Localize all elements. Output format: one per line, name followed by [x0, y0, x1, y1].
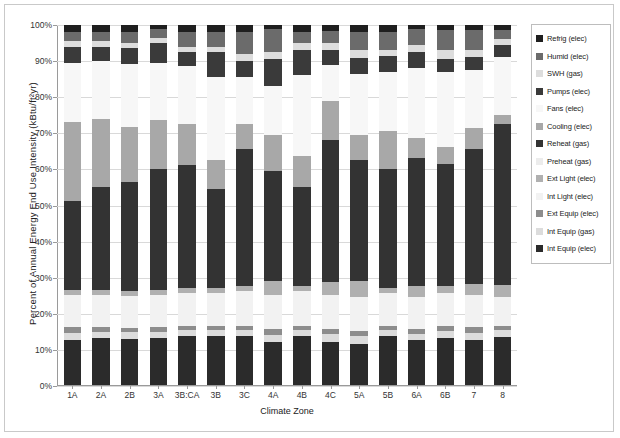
bar-slot: 4A	[259, 25, 288, 385]
legend-item[interactable]: Int Equip (elec)	[536, 240, 607, 258]
stacked-bar[interactable]	[322, 25, 339, 385]
legend-item[interactable]: Ext Equip (elec)	[536, 205, 607, 223]
x-axis-tick-mark	[130, 385, 131, 389]
bar-segment	[322, 101, 339, 141]
stacked-bar[interactable]	[293, 25, 310, 385]
bar-segment	[236, 336, 253, 385]
stacked-bar[interactable]	[150, 25, 167, 385]
x-axis-tick-label: 2A	[96, 390, 106, 400]
legend-swatch-icon	[536, 140, 543, 147]
bar-segment	[264, 295, 281, 329]
bar-segment	[408, 138, 425, 158]
stacked-bar[interactable]	[408, 25, 425, 385]
bar-segment	[178, 124, 195, 165]
bar-segment	[64, 201, 81, 289]
bar-segment	[207, 336, 224, 385]
bar-segment	[178, 25, 195, 32]
y-axis-tick-label: 100%	[30, 20, 52, 30]
legend-item[interactable]: Preheat (gas)	[536, 153, 607, 171]
bar-segment	[437, 286, 454, 293]
bar-segment	[293, 32, 310, 43]
stacked-bar[interactable]	[350, 25, 367, 385]
legend: Refrig (elec)Humid (elec)SWH (gas)Pumps …	[531, 24, 611, 264]
legend-item-label: Preheat (gas)	[547, 157, 591, 166]
bar-segment	[178, 52, 195, 66]
bar-segment	[350, 32, 367, 50]
x-axis-tick-label: 5B	[383, 390, 393, 400]
legend-item[interactable]: Ext Light (elec)	[536, 170, 607, 188]
y-axis-tick-mark	[53, 206, 57, 207]
legend-swatch-icon	[536, 88, 543, 95]
bar-segment	[322, 342, 339, 385]
bar-segment	[150, 29, 167, 38]
bar-segment	[494, 30, 511, 39]
bar-segment	[437, 59, 454, 72]
y-axis-tick-mark	[53, 97, 57, 98]
bar-segment	[150, 338, 167, 385]
stacked-bar[interactable]	[178, 25, 195, 385]
bar-segment	[350, 50, 367, 57]
bar-segment	[293, 291, 310, 325]
bar-segment	[408, 286, 425, 297]
x-axis-tick-label: 5A	[354, 390, 364, 400]
x-axis-tick-mark	[388, 385, 389, 389]
stacked-bar[interactable]	[64, 25, 81, 385]
legend-item[interactable]: Humid (elec)	[536, 48, 607, 66]
stacked-bar[interactable]	[494, 25, 511, 385]
bar-segment	[207, 52, 224, 77]
legend-item[interactable]: Int Equip (gas)	[536, 223, 607, 241]
y-axis-tick-mark	[53, 133, 57, 134]
bar-segment	[150, 169, 167, 290]
y-axis-tick-label: 40%	[35, 237, 52, 247]
stacked-bar[interactable]	[92, 25, 109, 385]
plot-area: 0%10%20%30%40%50%60%70%80%90%100% 1A2A2B…	[57, 25, 517, 386]
bar-slot: 3B:CA	[173, 25, 202, 385]
legend-swatch-icon	[536, 245, 543, 252]
legend-item[interactable]: Refrig (elec)	[536, 30, 607, 48]
bar-segment	[236, 32, 253, 54]
x-axis-tick-mark	[417, 385, 418, 389]
bar-segment	[92, 338, 109, 385]
bar-segment	[64, 25, 81, 32]
legend-swatch-icon	[536, 123, 543, 130]
legend-item-label: Refrig (elec)	[547, 34, 587, 43]
bar-segment	[150, 295, 167, 327]
y-axis-tick-mark	[53, 350, 57, 351]
bar-slot: 5B	[374, 25, 403, 385]
legend-item[interactable]: Pumps (elec)	[536, 83, 607, 101]
legend-item[interactable]: Reheat (gas)	[536, 135, 607, 153]
y-axis-tick-label: 70%	[35, 128, 52, 138]
x-axis-tick-mark	[273, 385, 274, 389]
y-axis-tick-label: 50%	[35, 201, 52, 211]
stacked-bar[interactable]	[379, 25, 396, 385]
bar-segment	[437, 30, 454, 50]
bar-segment	[293, 50, 310, 75]
stacked-bar[interactable]	[437, 25, 454, 385]
legend-item[interactable]: Int Light (elec)	[536, 188, 607, 206]
x-axis-tick-mark	[187, 385, 188, 389]
x-axis-tick-mark	[216, 385, 217, 389]
stacked-bar[interactable]	[207, 25, 224, 385]
stacked-bar[interactable]	[236, 25, 253, 385]
bar-segment	[408, 158, 425, 286]
y-axis-tick-mark	[53, 25, 57, 26]
legend-item-label: Fans (elec)	[547, 104, 583, 113]
bar-slot: 7	[460, 25, 489, 385]
legend-item[interactable]: Cooling (elec)	[536, 118, 607, 136]
stacked-bar[interactable]	[465, 25, 482, 385]
legend-item[interactable]: Fans (elec)	[536, 100, 607, 118]
legend-item[interactable]: SWH (gas)	[536, 65, 607, 83]
legend-swatch-icon	[536, 158, 543, 165]
bar-segment	[437, 331, 454, 338]
bar-slot: 4B	[288, 25, 317, 385]
bar-segment	[494, 297, 511, 326]
stacked-bar[interactable]	[121, 25, 138, 385]
bar-segment	[264, 342, 281, 385]
bar-segment	[236, 54, 253, 61]
bar-segment	[207, 293, 224, 325]
legend-swatch-icon	[536, 228, 543, 235]
bar-segment	[408, 52, 425, 68]
x-axis-tick-label: 3B:CA	[175, 390, 200, 400]
stacked-bar[interactable]	[264, 25, 281, 385]
bar-segment	[207, 160, 224, 189]
